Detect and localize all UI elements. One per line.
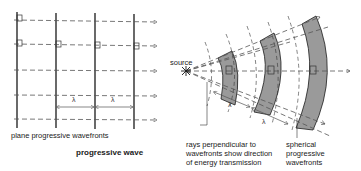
spherical-caption-line1: spherical (286, 140, 316, 149)
plane-wavefronts-label: plane progressive wavefronts (11, 131, 109, 140)
lambda-label-4: λ (262, 118, 266, 125)
plane-rays (14, 20, 157, 120)
leader-lines (200, 82, 297, 138)
rays-caption-line2: wavefronts show direction (186, 149, 272, 158)
source-icon (181, 66, 191, 76)
diagram-title: progressive wave (76, 148, 143, 157)
spherical-caption-line2: progressive (286, 149, 325, 158)
spherical-wavefronts (218, 16, 327, 130)
lambda-label-3: λ (228, 101, 232, 108)
lambda-label-1: λ (72, 96, 76, 103)
lambda-label-2: λ (111, 96, 115, 103)
source-label: source (170, 58, 193, 67)
rays-caption-line3: of energy transmission (186, 158, 261, 167)
spherical-caption-line3: wavefronts (286, 158, 322, 167)
spherical-dashed-arcs (205, 16, 299, 130)
right-angle-markers (17, 15, 139, 49)
rays-caption-line1: rays perpendicular to (186, 140, 256, 149)
